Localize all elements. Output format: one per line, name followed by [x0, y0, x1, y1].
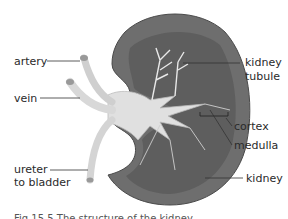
vein-opening: [66, 79, 74, 85]
label-medulla: medulla: [234, 139, 278, 152]
label-cortex: cortex: [234, 120, 269, 133]
label-tubule-line2: tubule: [245, 70, 280, 83]
ureter-vessel: [90, 120, 112, 180]
figure-caption: Fig 15.5 The structure of the kidney: [14, 212, 193, 219]
label-ureter-line2: to bladder: [14, 176, 71, 189]
label-ureter-line1: ureter: [14, 163, 48, 176]
label-tubule-line1: kidney: [245, 56, 282, 69]
artery-vessel: [84, 58, 112, 102]
label-vein: vein: [14, 92, 37, 105]
kidney-diagram: artery vein ureter to bladder kidney tub…: [0, 0, 288, 219]
label-kidney: kidney: [246, 172, 283, 185]
artery-opening: [80, 55, 88, 61]
label-artery: artery: [14, 55, 47, 68]
ureter-opening: [87, 178, 94, 183]
